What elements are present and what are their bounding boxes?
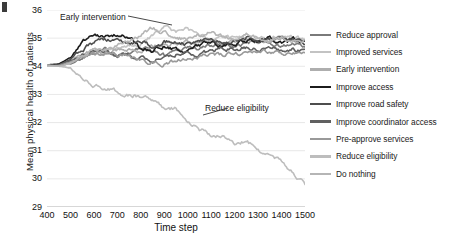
legend-swatch xyxy=(310,120,331,122)
y-tick-label: 34 xyxy=(18,62,42,71)
legend-swatch xyxy=(310,103,331,105)
legend-label: Improve road safety xyxy=(336,99,408,109)
y-tick-label: 30 xyxy=(18,174,42,183)
legend-label: Improve coordinator access xyxy=(336,117,437,127)
legend: Reduce approvalImproved servicesEarly in… xyxy=(310,26,453,183)
legend-label: Reduce eligibility xyxy=(336,151,397,161)
x-axis-title: Time step xyxy=(47,222,305,233)
legend-swatch xyxy=(310,68,331,70)
legend-label: Early intervention xyxy=(336,64,399,74)
x-tick-label: 1500 xyxy=(285,211,325,220)
legend-item[interactable]: Improve road safety xyxy=(310,96,453,113)
legend-swatch xyxy=(310,51,331,53)
legend-label: Improve access xyxy=(336,82,393,92)
y-tick-label: 33 xyxy=(18,90,42,99)
legend-label: Reduce approval xyxy=(336,30,398,40)
y-tick-label: 36 xyxy=(18,6,42,15)
legend-label: Improved services xyxy=(336,47,402,57)
legend-item[interactable]: Reduce eligibility xyxy=(310,148,453,165)
legend-item[interactable]: Improve coordinator access xyxy=(310,113,453,130)
legend-swatch xyxy=(310,173,331,175)
legend-swatch xyxy=(310,138,331,140)
y-tick-label: 31 xyxy=(18,146,42,155)
chart-figure: Mean physical health of patients 2930313… xyxy=(0,0,453,243)
legend-swatch xyxy=(310,86,331,88)
annotation-early-intervention: Early intervention xyxy=(60,12,126,22)
legend-swatch xyxy=(310,155,331,157)
series-line xyxy=(47,66,305,184)
annotation-reduce-eligibility: Reduce eligibility xyxy=(205,103,269,113)
legend-item[interactable]: Reduce approval xyxy=(310,26,453,43)
legend-item[interactable]: Early intervention xyxy=(310,61,453,78)
legend-swatch xyxy=(310,34,331,36)
legend-item[interactable]: Improve access xyxy=(310,78,453,95)
legend-item[interactable]: Improved services xyxy=(310,43,453,60)
y-tick-label: 35 xyxy=(18,34,42,43)
legend-item[interactable]: Do nothing xyxy=(310,165,453,182)
legend-label: Pre-approve services xyxy=(336,134,413,144)
legend-item[interactable]: Pre-approve services xyxy=(310,130,453,147)
legend-label: Do nothing xyxy=(336,169,376,179)
y-tick-label: 32 xyxy=(18,118,42,127)
corner-artifact xyxy=(2,2,7,12)
